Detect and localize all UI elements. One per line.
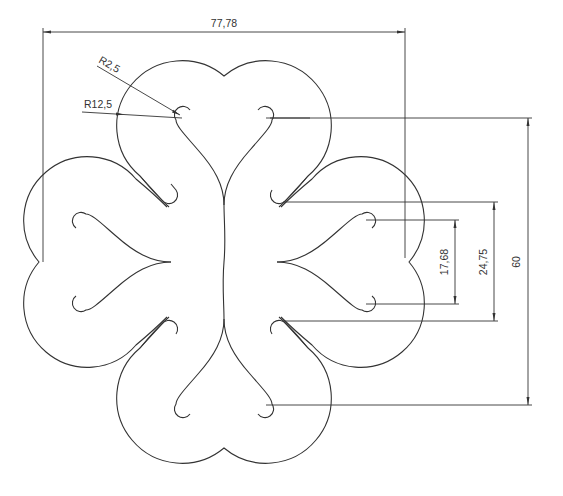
right-heart-inner-bottom (277, 262, 376, 312)
dimension-overall-height: 60 (266, 118, 532, 405)
leader-line (82, 112, 182, 118)
dimension-overall-width: 77,78 (43, 17, 405, 262)
dimension-label-height: 60 (510, 256, 522, 268)
right-heart-inner-top (277, 212, 376, 262)
arrow-up-icon (493, 202, 496, 210)
bottom-heart-inner-left (174, 319, 224, 418)
radius-large-callout: R12,5 (82, 98, 182, 118)
dimension-label-width: 77,78 (211, 17, 237, 29)
arrow-down-icon (527, 397, 530, 405)
dimension-hook-span: 17,68 (366, 220, 459, 304)
contact-arc-bottom (223, 262, 224, 319)
top-heart-inner-left (174, 106, 224, 205)
left-heart-outer (24, 157, 167, 368)
dimension-label-tail-span: 24,75 (477, 249, 489, 275)
contact-arc-top (224, 205, 225, 262)
arrow-up-icon (454, 220, 457, 228)
arrow-down-icon (454, 296, 457, 304)
right-heart-outer (281, 157, 424, 368)
left-heart-inner-bottom (72, 262, 171, 312)
ornament-paths (24, 61, 425, 464)
arrow-right-icon (397, 31, 405, 34)
technical-drawing: 77,78 60 24,75 17,68 R2,5 R12,5 (0, 0, 563, 496)
radius-label-large: R12,5 (84, 98, 112, 110)
arrow-up-icon (527, 118, 530, 126)
left-heart-inner-top (72, 212, 171, 262)
top-heart-inner-right (224, 106, 274, 205)
dimension-label-hook-span: 17,68 (438, 249, 450, 275)
arrow-down-icon (493, 313, 496, 321)
radius-label-small: R2,5 (97, 53, 122, 75)
bottom-heart-inner-right (224, 319, 274, 418)
arrow-left-icon (43, 31, 51, 34)
